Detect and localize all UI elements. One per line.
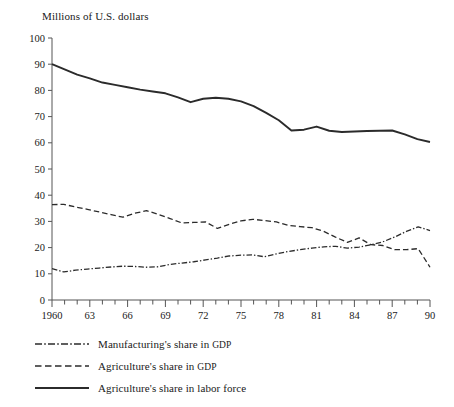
legend-swatch-solid (34, 382, 90, 394)
y-tick-label: 60 (35, 137, 46, 148)
legend-item-agriculture-share-gdp: Agriculture's share in GDP (34, 355, 434, 377)
legend-label-manufacturing: Manufacturing's share in GDP (98, 338, 231, 350)
y-tick-label: 0 (40, 295, 45, 306)
x-tick-label: 63 (85, 310, 96, 321)
x-tick-label: 72 (198, 310, 209, 321)
y-tick-label: 90 (35, 59, 46, 70)
y-tick-label: 80 (35, 85, 46, 96)
x-tick-label: 1960 (42, 310, 63, 321)
legend-label-agriculture-labor: Agriculture's share in labor force (98, 382, 246, 394)
chart-line-series-1 (52, 204, 430, 267)
legend-item-manufacturing-share-gdp: Manufacturing's share in GDP (34, 333, 434, 355)
legend-label-gdp-caps-0: GDP (212, 340, 231, 350)
x-tick-label: 81 (311, 310, 322, 321)
legend-item-agriculture-share-labor-force: Agriculture's share in labor force (34, 377, 434, 399)
chart-series-group (52, 64, 430, 272)
chart-figure: Millions of U.S. dollars 010203040506070… (0, 0, 454, 407)
legend-swatch-dashdot (34, 338, 90, 350)
y-tick-label: 100 (29, 33, 45, 44)
x-tick-label: 78 (274, 310, 285, 321)
chart-line-series-2 (52, 64, 430, 142)
legend-label-agriculture-gdp: Agriculture's share in GDP (98, 360, 217, 372)
x-tick-label: 69 (160, 310, 171, 321)
y-tick-label: 70 (35, 111, 46, 122)
y-tick-label: 40 (35, 190, 46, 201)
x-tick-label: 75 (236, 310, 247, 321)
x-axis-ticks: 196063666972757881848790 (42, 300, 436, 321)
chart-legend: Manufacturing's share in GDP Agriculture… (34, 333, 434, 399)
chart-line-series-0 (52, 227, 430, 272)
x-tick-label: 90 (425, 310, 436, 321)
y-tick-label: 10 (35, 268, 46, 279)
chart-axes (52, 38, 430, 300)
x-tick-label: 87 (387, 310, 398, 321)
y-axis-ticks: 0102030405060708090100 (29, 33, 52, 306)
y-tick-label: 20 (35, 242, 46, 253)
y-tick-label: 30 (35, 216, 46, 227)
x-tick-label: 66 (122, 310, 133, 321)
legend-label-gdp-caps-1: GDP (197, 362, 216, 372)
y-tick-label: 50 (35, 164, 46, 175)
legend-swatch-dashed (34, 360, 90, 372)
x-tick-label: 84 (349, 310, 360, 321)
